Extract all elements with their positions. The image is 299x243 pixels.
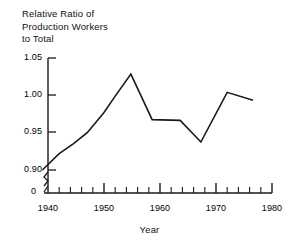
data-series-line — [42, 74, 253, 170]
ytick-label-0-90: 0.90 — [2, 164, 42, 174]
ytick-label-1-00: 1.00 — [2, 89, 42, 99]
ytick-label-zero: 0 — [2, 186, 36, 196]
ytick-label-1-05: 1.05 — [2, 52, 42, 62]
x-axis-label: Year — [0, 224, 299, 237]
xtick-label-1980: 1980 — [252, 203, 292, 213]
xtick-label-1940: 1940 — [28, 203, 68, 213]
y-axis-ticks — [48, 58, 56, 170]
xtick-label-1960: 1960 — [140, 203, 180, 213]
chart-figure: Relative Ratio of Production Workers to … — [0, 0, 299, 243]
xtick-label-1950: 1950 — [84, 203, 124, 213]
xtick-label-1970: 1970 — [196, 203, 236, 213]
ytick-label-0-95: 0.95 — [2, 126, 42, 136]
